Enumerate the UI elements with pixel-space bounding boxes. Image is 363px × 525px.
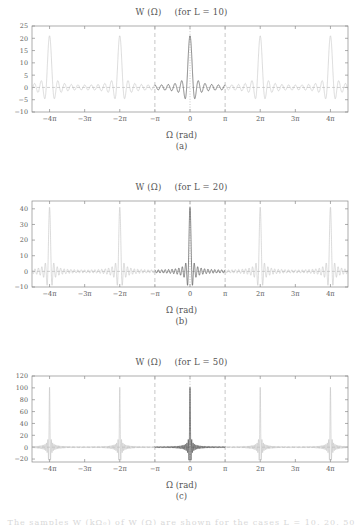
x-tick-label: 3π xyxy=(291,465,300,473)
curve-main xyxy=(155,207,225,285)
x-tick-label: 2π xyxy=(256,465,265,473)
x-tick-label: 4π xyxy=(326,290,335,298)
x-tick-label: 2π xyxy=(256,290,265,298)
curve-replica xyxy=(32,387,155,460)
panel-a: W (Ω)(for L = 10) 2520151050−5−10−4π−3π−… xyxy=(0,0,363,175)
y-tick-label: 40 xyxy=(20,420,28,428)
y-tick-label: 20 xyxy=(20,236,28,244)
x-tick-label: −3π xyxy=(78,465,93,473)
x-tick-label: 4π xyxy=(326,465,335,473)
x-tick-label: π xyxy=(223,115,228,123)
figure-bottom-partial-text: The samples W (kΩ₀) of W (Ω) are shown f… xyxy=(0,518,363,525)
curve-replica xyxy=(225,36,348,99)
curve-replica xyxy=(32,36,155,99)
x-tick-label: 0 xyxy=(188,290,192,298)
y-tick-label: 15 xyxy=(20,47,28,55)
panel-c-title: W (Ω)(for L = 50) xyxy=(0,350,363,367)
x-tick-label: 0 xyxy=(188,465,192,473)
x-tick-label: π xyxy=(223,290,228,298)
y-tick-label: 80 xyxy=(20,396,28,404)
x-tick-label: −3π xyxy=(78,115,93,123)
y-tick-label: 25 xyxy=(20,22,28,30)
panel-b-plot: 403020100−10−4π−3π−2π−π0π2π3π4π xyxy=(0,195,363,307)
y-tick-label: 10 xyxy=(20,252,28,260)
x-tick-label: −4π xyxy=(43,290,58,298)
x-tick-label: 0 xyxy=(188,115,192,123)
curve-replica xyxy=(32,207,155,285)
panel-b-title: W (Ω)(for L = 20) xyxy=(0,175,363,192)
panel-c: W (Ω)(for L = 50) 120100806040200−20−4π−… xyxy=(0,350,363,525)
y-tick-label: 20 xyxy=(20,35,28,43)
panel-c-caption: (c) xyxy=(0,491,363,501)
y-tick-label: 100 xyxy=(16,384,28,392)
y-tick-label: 40 xyxy=(20,205,28,213)
y-tick-label: −5 xyxy=(19,96,28,104)
y-tick-label: 60 xyxy=(20,408,28,416)
panel-a-caption: (a) xyxy=(0,141,363,151)
panel-b: W (Ω)(for L = 20) 403020100−10−4π−3π−2π−… xyxy=(0,175,363,350)
x-tick-label: 3π xyxy=(291,290,300,298)
x-tick-label: −4π xyxy=(43,115,58,123)
panel-c-title-condition: (for L = 50) xyxy=(175,357,228,367)
panel-c-plot: 120100806040200−20−4π−3π−2π−π0π2π3π4π xyxy=(0,370,363,482)
x-tick-label: −π xyxy=(150,115,161,123)
x-tick-label: π xyxy=(223,465,228,473)
y-tick-label: 30 xyxy=(20,221,28,229)
panel-a-svg: 2520151050−5−10−4π−3π−2π−π0π2π3π4π xyxy=(0,20,363,132)
x-tick-label: −π xyxy=(150,465,161,473)
x-tick-label: −2π xyxy=(113,115,128,123)
panel-c-title-function: W (Ω) xyxy=(135,357,161,367)
y-tick-label: 0 xyxy=(24,444,28,452)
y-tick-label: −20 xyxy=(15,455,29,463)
panel-a-plot: 2520151050−5−10−4π−3π−2π−π0π2π3π4π xyxy=(0,20,363,132)
x-tick-label: −2π xyxy=(113,290,128,298)
panel-a-title-condition: (for L = 10) xyxy=(175,7,228,17)
x-tick-label: 4π xyxy=(326,115,335,123)
panel-a-title: W (Ω)(for L = 10) xyxy=(0,0,363,17)
x-tick-label: 2π xyxy=(256,115,265,123)
y-tick-label: 5 xyxy=(24,72,28,80)
x-tick-label: −4π xyxy=(43,465,58,473)
y-tick-label: 10 xyxy=(20,59,28,67)
curve-replica xyxy=(225,387,348,460)
panel-a-title-function: W (Ω) xyxy=(135,7,161,17)
figure-dirichlet-kernel: W (Ω)(for L = 10) 2520151050−5−10−4π−3π−… xyxy=(0,0,363,525)
panel-b-title-function: W (Ω) xyxy=(135,182,161,192)
y-tick-label: 0 xyxy=(24,268,28,276)
y-tick-label: 120 xyxy=(16,372,28,380)
panel-b-svg: 403020100−10−4π−3π−2π−π0π2π3π4π xyxy=(0,195,363,307)
y-tick-label: 20 xyxy=(20,432,28,440)
panel-c-svg: 120100806040200−20−4π−3π−2π−π0π2π3π4π xyxy=(0,370,363,482)
y-tick-label: −10 xyxy=(15,283,29,291)
y-tick-label: 0 xyxy=(24,84,28,92)
x-tick-label: −2π xyxy=(113,465,128,473)
panel-b-title-condition: (for L = 20) xyxy=(175,182,228,192)
x-tick-label: −3π xyxy=(78,290,93,298)
y-tick-label: −10 xyxy=(15,108,29,116)
panel-b-caption: (b) xyxy=(0,316,363,326)
x-tick-label: −π xyxy=(150,290,161,298)
x-tick-label: 3π xyxy=(291,115,300,123)
curve-replica xyxy=(225,207,348,285)
